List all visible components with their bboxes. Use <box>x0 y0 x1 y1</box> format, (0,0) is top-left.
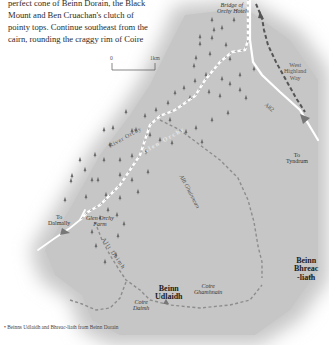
intro-line: pointy tops. Continue southeast from the <box>8 21 208 33</box>
label-coire-ghamhnain: Coire Ghamhnain <box>194 283 222 296</box>
label-bridge-of-orchy-hotel: Bridge of Orchy Hotel <box>217 2 247 15</box>
label-west-highland-way: West Highland Way <box>284 62 306 81</box>
label-beinn-bhreac-liath: Beinn Bhreac -liath <box>294 257 318 282</box>
label-to-dalmally: To Dalmally <box>48 214 70 227</box>
intro-line: cairn, rounding the craggy rim of Coire <box>8 33 208 45</box>
scale-end-label: 1km <box>150 55 160 61</box>
intro-line: Mount and Ben Cruachan's clutch of <box>8 9 208 21</box>
label-beinn-udlaidh: Beinn Udlaidh <box>155 285 183 302</box>
route-map: perfect cone of Beinn Dorain, the Black … <box>0 0 329 345</box>
label-coire-daimh: Coire Daimh <box>133 299 149 312</box>
photo-caption: • Beinns Udlaidh and Bhreac-liath from B… <box>4 324 124 331</box>
label-glen-orchy-farm: Glen Orchy Farm <box>86 215 114 228</box>
intro-paragraph: perfect cone of Beinn Dorain, the Black … <box>8 0 208 45</box>
label-to-tyndrum: To Tyndrum <box>286 152 308 165</box>
scale-start-label: 0 <box>110 55 113 61</box>
intro-line: perfect cone of Beinn Dorain, the Black <box>8 0 208 9</box>
